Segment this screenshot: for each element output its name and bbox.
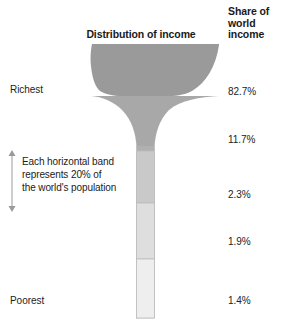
income-distribution-figure: Share of world income Distribution of in…: [0, 0, 281, 324]
stem-band-poorest: [137, 259, 155, 318]
share-value-richest: 82.7%: [228, 86, 278, 97]
share-value-third: 2.3%: [228, 189, 278, 200]
stem-band-second-tail: [137, 146, 155, 151]
population-band-arrow-icon: [6, 150, 20, 212]
share-value-poorest: 1.4%: [228, 295, 278, 306]
band-annotation-line-3: the world's population: [22, 181, 142, 194]
band-annotation: Each horizontal band represents 20% of t…: [22, 155, 142, 194]
share-value-second: 11.7%: [228, 134, 278, 145]
band-annotation-line-2: represents 20% of: [22, 168, 142, 181]
stem-band-fourth: [137, 203, 155, 259]
axis-label-poorest: Poorest: [10, 295, 44, 306]
axis-label-richest: Richest: [10, 84, 43, 95]
share-value-fourth: 1.9%: [228, 236, 278, 247]
band-annotation-line-1: Each horizontal band: [22, 155, 142, 168]
